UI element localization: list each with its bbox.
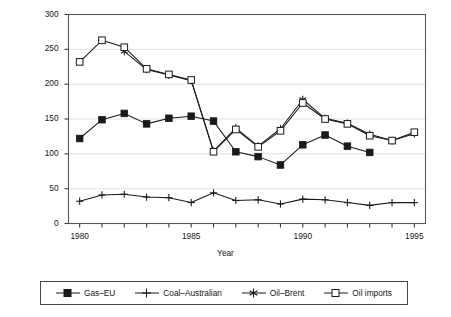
y-axis-ticks bbox=[65, 15, 69, 224]
y-tick-label: 100 bbox=[33, 148, 59, 158]
legend-label-oil-brent: Oil–Brent bbox=[270, 288, 305, 298]
x-tick-label: 1980 bbox=[63, 231, 97, 241]
y-tick-label: 50 bbox=[33, 183, 59, 193]
x-axis-ticks bbox=[80, 224, 415, 228]
x-tick-label: 1990 bbox=[286, 231, 320, 241]
x-tick-label: 1995 bbox=[397, 231, 431, 241]
y-tick-label: 250 bbox=[33, 43, 59, 53]
data-series-layer bbox=[76, 37, 418, 209]
y-tick-label: 150 bbox=[33, 113, 59, 123]
legend-label-coal-australian: Coal–Australian bbox=[163, 288, 222, 298]
legend-item-oil-imports[interactable]: Oil imports bbox=[324, 287, 392, 299]
series-coal-australian bbox=[76, 189, 418, 209]
gridlines bbox=[69, 15, 426, 189]
y-tick-label: 0 bbox=[33, 218, 59, 228]
y-tick-label: 200 bbox=[33, 78, 59, 88]
legend-item-coal-australian[interactable]: Coal–Australian bbox=[135, 287, 222, 299]
y-tick-label: 300 bbox=[33, 9, 59, 19]
plus-icon bbox=[135, 287, 159, 299]
legend-label-oil-imports: Oil imports bbox=[352, 288, 392, 298]
asterisk-icon bbox=[242, 287, 266, 299]
plot-area bbox=[0, 0, 451, 317]
filled-square-icon bbox=[56, 287, 80, 299]
legend-label-gas-eu: Gas–EU bbox=[84, 288, 115, 298]
chart-legend: Gas–EU Coal–Australian Oil–Brent bbox=[40, 281, 408, 305]
legend-item-oil-brent[interactable]: Oil–Brent bbox=[242, 287, 305, 299]
open-square-icon bbox=[324, 287, 348, 299]
chart-figure: $ per tonne oil equivalent Year 05010015… bbox=[0, 0, 451, 317]
legend-item-gas-eu[interactable]: Gas–EU bbox=[56, 287, 115, 299]
x-tick-label: 1985 bbox=[174, 231, 208, 241]
